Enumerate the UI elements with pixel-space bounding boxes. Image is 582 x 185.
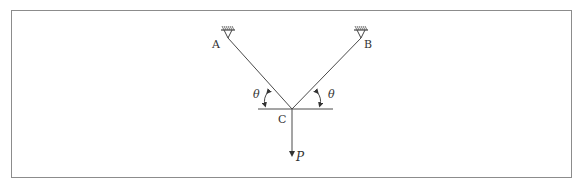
cable-ac <box>228 38 292 109</box>
label-a: A <box>211 38 221 51</box>
label-b: B <box>364 38 372 51</box>
support-a-icon <box>221 26 235 38</box>
support-b-icon <box>354 26 368 38</box>
angle-arc-left-icon <box>264 92 268 105</box>
cable-bc <box>292 38 361 109</box>
label-theta-left: θ <box>253 88 260 101</box>
label-c: C <box>278 113 286 126</box>
label-theta-right: θ <box>328 88 335 101</box>
cable-diagram: A B C θ θ P <box>0 0 582 185</box>
label-load-p: P <box>295 150 305 164</box>
angle-arc-right-icon <box>317 92 321 105</box>
